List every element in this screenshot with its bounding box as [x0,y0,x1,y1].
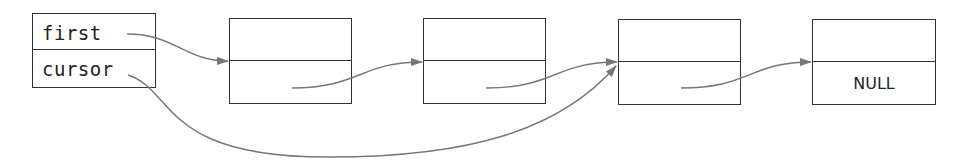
list-node-1 [229,18,352,104]
first-pointer-field: first [33,14,155,51]
list-node-3 [618,19,741,105]
list-node-2 [423,18,546,104]
first-label: first [42,22,102,44]
linked-list-diagram: first cursor [0,0,968,165]
node-3-next-field [619,61,740,104]
list-node-4: NULL [812,19,936,105]
node-4-data-field [813,20,935,63]
pointer-box: first cursor [32,13,156,88]
node-4-next-field: NULL [813,61,935,104]
node-1-next-field [230,60,351,103]
node-3-data-field [619,20,740,63]
node-2-data-field [424,19,545,62]
null-terminator-label: NULL [853,74,895,93]
cursor-pointer-field: cursor [33,49,155,87]
node-2-next-field [424,60,545,103]
cursor-label: cursor [42,58,114,80]
node-1-data-field [230,19,351,62]
